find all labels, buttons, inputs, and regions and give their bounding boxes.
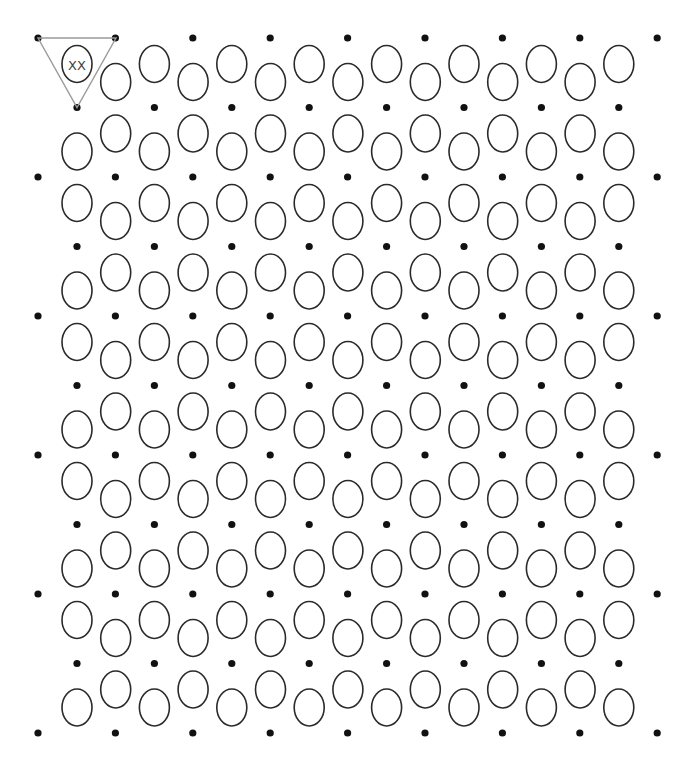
cell-ellipse-down[interactable] [139, 324, 169, 361]
cell-ellipse-down[interactable] [604, 46, 634, 83]
cell-ellipse-up[interactable] [294, 272, 324, 309]
cell-ellipse-down[interactable] [604, 185, 634, 222]
cell-ellipse-down[interactable] [139, 463, 169, 500]
cell-ellipse-down[interactable] [217, 602, 247, 639]
lattice-cell[interactable] [604, 324, 634, 361]
cell-ellipse-down[interactable] [101, 532, 131, 569]
cell-ellipse-up[interactable] [101, 64, 131, 101]
lattice-cell[interactable] [294, 463, 324, 500]
cell-ellipse-down[interactable] [62, 602, 92, 639]
lattice-cell[interactable] [217, 550, 247, 587]
cell-ellipse-up[interactable] [488, 481, 518, 518]
cell-ellipse-down[interactable] [139, 46, 169, 83]
cell-ellipse-up[interactable] [410, 203, 440, 240]
cell-ellipse-up[interactable] [333, 342, 363, 379]
cell-ellipse-up[interactable] [217, 133, 247, 170]
cell-ellipse-up[interactable] [139, 411, 169, 448]
cell-ellipse-down[interactable] [333, 115, 363, 152]
cell-ellipse-down[interactable] [410, 532, 440, 569]
lattice-cell[interactable] [526, 463, 556, 500]
lattice-cell[interactable] [139, 133, 169, 170]
lattice-cell[interactable] [217, 602, 247, 639]
cell-ellipse-down[interactable] [178, 254, 208, 291]
lattice-cell[interactable] [62, 133, 92, 170]
cell-ellipse-up[interactable] [178, 620, 208, 657]
cell-ellipse-up[interactable] [178, 342, 208, 379]
cell-ellipse-down[interactable] [178, 393, 208, 430]
cell-ellipse-down[interactable] [101, 115, 131, 152]
cell-ellipse-up[interactable] [526, 550, 556, 587]
cell-ellipse-up[interactable] [333, 481, 363, 518]
cell-ellipse-up[interactable] [449, 411, 479, 448]
cell-ellipse-down[interactable] [410, 115, 440, 152]
lattice-cell[interactable] [333, 481, 363, 518]
lattice-cell[interactable] [62, 602, 92, 639]
lattice-cell[interactable] [526, 324, 556, 361]
lattice-cell[interactable] [139, 272, 169, 309]
lattice-cell[interactable] [256, 393, 286, 430]
lattice-cell[interactable] [372, 463, 402, 500]
cell-ellipse-up[interactable] [410, 64, 440, 101]
cell-ellipse-down[interactable] [488, 532, 518, 569]
lattice-cell[interactable] [372, 324, 402, 361]
lattice-cell[interactable] [139, 689, 169, 726]
lattice-cell[interactable] [488, 671, 518, 708]
lattice-cell[interactable] [526, 133, 556, 170]
cell-ellipse-down[interactable] [488, 254, 518, 291]
cell-ellipse-up[interactable] [178, 203, 208, 240]
cell-ellipse-down[interactable] [62, 324, 92, 361]
lattice-cell[interactable] [139, 185, 169, 222]
lattice-cell[interactable] [217, 272, 247, 309]
cell-ellipse-up[interactable] [372, 689, 402, 726]
cell-ellipse-down[interactable] [565, 671, 595, 708]
lattice-cell[interactable] [604, 133, 634, 170]
lattice-cell[interactable] [217, 46, 247, 83]
lattice-cell[interactable] [488, 254, 518, 291]
lattice-cell[interactable] [565, 342, 595, 379]
lattice-cell[interactable] [410, 671, 440, 708]
cell-ellipse-down[interactable] [604, 602, 634, 639]
lattice-cell[interactable] [256, 620, 286, 657]
lattice-cell[interactable] [604, 689, 634, 726]
cell-ellipse-up[interactable] [565, 64, 595, 101]
cell-ellipse-up[interactable] [372, 550, 402, 587]
lattice-cell[interactable] [294, 324, 324, 361]
lattice-cell[interactable] [178, 481, 208, 518]
cell-ellipse-up[interactable] [62, 272, 92, 309]
cell-ellipse-up[interactable] [256, 481, 286, 518]
lattice-cell[interactable] [449, 272, 479, 309]
cell-ellipse-down[interactable] [565, 115, 595, 152]
cell-ellipse-up[interactable] [139, 550, 169, 587]
lattice-cell[interactable] [604, 463, 634, 500]
lattice-cell[interactable] [256, 532, 286, 569]
lattice-cell[interactable] [139, 324, 169, 361]
lattice-cell[interactable] [62, 272, 92, 309]
lattice-cell[interactable] [101, 254, 131, 291]
lattice-cell[interactable] [101, 620, 131, 657]
lattice-cell[interactable] [62, 550, 92, 587]
cell-ellipse-up[interactable] [256, 620, 286, 657]
cell-ellipse-up[interactable] [449, 689, 479, 726]
cell-ellipse-down[interactable] [372, 324, 402, 361]
cell-ellipse-down[interactable] [449, 324, 479, 361]
cell-ellipse-up[interactable] [294, 133, 324, 170]
lattice-cell[interactable] [488, 203, 518, 240]
lattice-cell[interactable] [139, 550, 169, 587]
lattice-cell[interactable] [604, 185, 634, 222]
lattice-cell[interactable] [565, 393, 595, 430]
lattice-cell[interactable] [604, 550, 634, 587]
lattice-cell[interactable] [604, 602, 634, 639]
lattice-cell[interactable] [449, 463, 479, 500]
lattice-cell[interactable] [488, 620, 518, 657]
lattice-cell[interactable] [604, 272, 634, 309]
lattice-cell[interactable] [178, 115, 208, 152]
lattice-cell[interactable] [217, 463, 247, 500]
cell-ellipse-up[interactable] [372, 411, 402, 448]
cell-ellipse-up[interactable] [294, 411, 324, 448]
cell-ellipse-up[interactable] [488, 203, 518, 240]
cell-ellipse-down[interactable] [178, 532, 208, 569]
cell-ellipse-up[interactable] [139, 272, 169, 309]
lattice-cell[interactable] [526, 272, 556, 309]
cell-ellipse-down[interactable] [333, 532, 363, 569]
cell-ellipse-down[interactable] [101, 671, 131, 708]
